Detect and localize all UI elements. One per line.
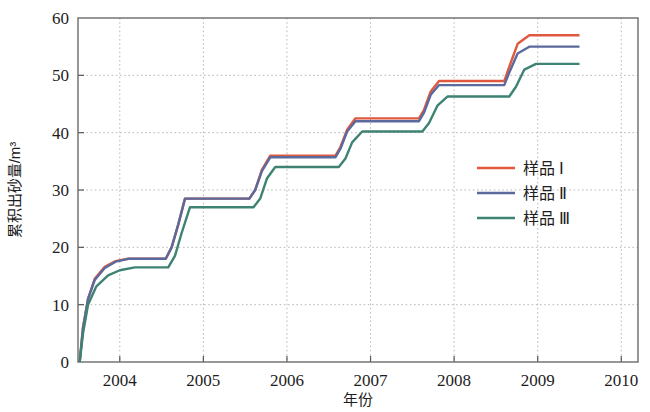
y-tick-label: 30 bbox=[52, 181, 69, 200]
y-axis-tick-labels: 0102030405060 bbox=[52, 9, 69, 372]
x-tick-label: 2005 bbox=[186, 371, 220, 390]
x-tick-label: 2009 bbox=[521, 371, 555, 390]
legend-label: 样品 Ⅰ bbox=[523, 160, 564, 177]
series-line bbox=[80, 47, 580, 362]
legend: 样品 Ⅰ样品 Ⅱ样品 Ⅲ bbox=[477, 160, 570, 227]
chart-canvas: 2004200520062007200820092010 01020304050… bbox=[0, 0, 650, 412]
y-tick-label: 10 bbox=[52, 296, 69, 315]
x-tick-label: 2007 bbox=[354, 371, 389, 390]
y-tick-label: 20 bbox=[52, 238, 69, 257]
x-tick-label: 2010 bbox=[604, 371, 638, 390]
series-line bbox=[80, 64, 580, 362]
x-axis-tick-labels: 2004200520062007200820092010 bbox=[103, 371, 638, 390]
legend-label: 样品 Ⅱ bbox=[523, 185, 567, 202]
x-tick-label: 2004 bbox=[103, 371, 138, 390]
y-tick-label: 60 bbox=[52, 9, 69, 28]
x-axis-title: 年份 bbox=[343, 391, 373, 408]
x-tick-label: 2008 bbox=[437, 371, 471, 390]
y-axis-title: 累积出砂量/m³ bbox=[6, 142, 23, 239]
sand-production-chart: 2004200520062007200820092010 01020304050… bbox=[0, 0, 650, 412]
y-tick-label: 50 bbox=[52, 66, 69, 85]
svg-text:累积出砂量/m³: 累积出砂量/m³ bbox=[6, 142, 23, 239]
y-tick-label: 40 bbox=[52, 124, 69, 143]
series-lines bbox=[80, 35, 580, 362]
y-tick-label: 0 bbox=[61, 353, 70, 372]
legend-label: 样品 Ⅲ bbox=[523, 210, 570, 227]
x-tick-label: 2006 bbox=[270, 371, 304, 390]
